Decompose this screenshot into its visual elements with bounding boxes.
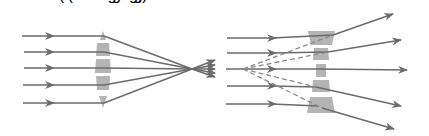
converging-rays [104, 36, 215, 103]
convex-lens-icon [95, 31, 111, 108]
lens-diagram: Converging and diverging lens ray diagra… [0, 0, 429, 136]
diverging-panel-label: Concave (diverging) lens [0, 0, 177, 3]
lens-diagram-canvas: Convex (converging) lens [0, 0, 429, 136]
converging-lens-panel: Convex (converging) lens [0, 0, 215, 108]
incoming-rays [22, 36, 104, 103]
